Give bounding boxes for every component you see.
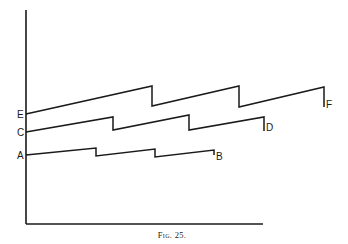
label-a: A	[17, 150, 24, 161]
label-b: B	[216, 151, 223, 162]
label-d: D	[266, 122, 273, 133]
sawtooth-line-e-f	[26, 86, 324, 114]
label-e: E	[17, 109, 24, 120]
label-f: F	[326, 99, 332, 110]
sawtooth-line-c-d	[26, 115, 264, 132]
label-c: C	[17, 127, 24, 138]
sawtooth-line-a-b	[26, 148, 214, 157]
figure-25: E F C D A B Fig. 25.	[0, 0, 348, 244]
figure-caption: Fig. 25.	[158, 230, 186, 240]
